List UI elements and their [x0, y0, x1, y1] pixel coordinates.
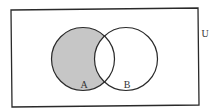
- universe-label: U: [201, 28, 209, 39]
- venn-diagram: A B U: [0, 0, 217, 110]
- set-a-label: A: [80, 79, 88, 90]
- universe-rectangle: [11, 8, 199, 107]
- set-b-label: B: [124, 79, 131, 90]
